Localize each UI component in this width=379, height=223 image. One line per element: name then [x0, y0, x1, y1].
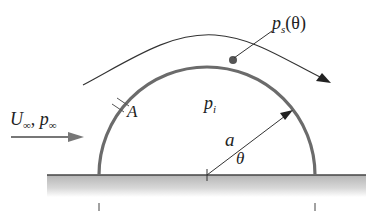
angle-label: θ	[236, 150, 244, 167]
internal-pressure-label: pi	[204, 94, 216, 112]
freestream-arrowhead	[68, 132, 84, 142]
radius-line	[207, 113, 289, 175]
semicircle-shell	[99, 67, 315, 175]
streamline-arrowhead	[316, 73, 331, 83]
surface-pressure-leader	[234, 31, 272, 58]
surface-pressure-subscript: s	[281, 23, 285, 35]
freestream-pressure-symbol: p	[40, 109, 49, 129]
freestream-label: U∞, p∞	[10, 110, 57, 128]
internal-pressure-subscript: i	[213, 103, 216, 115]
surface-pressure-symbol: p	[272, 13, 281, 33]
freestream-velocity-subscript: ∞	[23, 119, 31, 131]
streamline	[83, 35, 326, 85]
freestream-separator: ,	[31, 109, 40, 129]
internal-pressure-symbol: p	[204, 93, 213, 113]
freestream-velocity-symbol: U	[10, 109, 23, 129]
radius-label: a	[225, 130, 235, 149]
surface-pressure-label: ps(θ)	[272, 14, 306, 32]
semicircle-flow-diagram: U∞, p∞ A ps(θ) pi a θ	[0, 0, 379, 223]
freestream-pressure-subscript: ∞	[49, 119, 57, 131]
surface-pressure-argument: (θ)	[285, 13, 306, 33]
point-a-label: A	[127, 103, 137, 120]
